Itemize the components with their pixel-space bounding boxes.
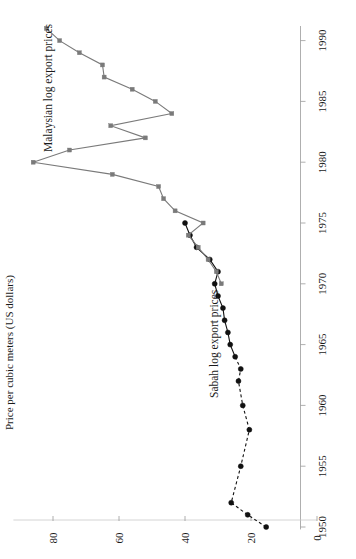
year-tick-label: 1970	[316, 272, 328, 295]
data-series-group	[31, 26, 268, 529]
data-point	[143, 136, 147, 140]
data-point	[229, 500, 234, 505]
year-tick-label: 1990	[316, 29, 328, 52]
data-point	[173, 209, 177, 213]
value-tick-label: 60	[113, 532, 125, 544]
year-tick-label: 1975	[316, 212, 328, 235]
data-point	[183, 221, 188, 226]
data-point	[31, 160, 35, 164]
data-point	[225, 330, 230, 335]
data-point	[219, 282, 223, 286]
data-point	[110, 172, 114, 176]
data-point	[222, 318, 227, 323]
data-point	[236, 379, 241, 384]
series-annotations: Malaysian log export pricesSabah log exp…	[42, 23, 221, 398]
data-point	[162, 197, 166, 201]
data-point	[170, 112, 174, 116]
series-annotation-label: Sabah log export prices	[208, 289, 221, 398]
data-point	[233, 354, 238, 359]
series-line	[33, 28, 221, 283]
data-point	[247, 427, 252, 432]
data-point	[186, 233, 190, 237]
data-point	[58, 39, 62, 43]
data-point	[201, 221, 205, 225]
data-point	[109, 124, 113, 128]
data-point	[228, 342, 233, 347]
chart-container: 195019551960196519701975198019851990 020…	[0, 0, 356, 559]
data-point	[101, 63, 105, 67]
data-point	[240, 403, 245, 408]
data-point	[77, 51, 81, 55]
year-tick-label: 1950	[316, 516, 328, 539]
log-export-prices-chart: 195019551960196519701975198019851990 020…	[0, 0, 356, 559]
year-axis: 195019551960196519701975198019851990	[301, 26, 329, 538]
year-tick-label: 1985	[316, 90, 328, 113]
value-tick-label: 20	[245, 532, 257, 544]
value-axis: 020406080	[13, 516, 323, 544]
data-point	[220, 306, 225, 311]
value-axis-title: Price per cubic meters (US dollars)	[3, 275, 16, 430]
series-annotation-label: Malaysian log export prices	[42, 23, 55, 152]
year-tick-label: 1955	[316, 455, 328, 478]
data-point	[102, 75, 106, 79]
data-point	[212, 281, 217, 286]
data-point	[153, 99, 157, 103]
data-point	[245, 512, 250, 517]
data-point	[264, 525, 269, 530]
data-point	[130, 87, 134, 91]
value-tick-label: 40	[179, 532, 191, 544]
data-point	[206, 257, 210, 261]
data-point	[238, 366, 243, 371]
data-point	[157, 185, 161, 189]
year-tick-label: 1980	[316, 151, 328, 174]
year-tick-label: 1965	[316, 333, 328, 356]
data-point	[214, 270, 218, 274]
value-tick-label: 80	[47, 532, 59, 544]
data-point	[68, 148, 72, 152]
year-tick-label: 1960	[316, 394, 328, 417]
value-tick-label: 0	[311, 535, 323, 541]
data-point	[238, 464, 243, 469]
data-point	[196, 245, 200, 249]
